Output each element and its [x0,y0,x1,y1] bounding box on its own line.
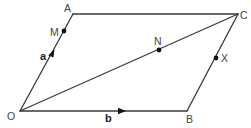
label-A: A [64,2,71,14]
label-X: X [221,52,228,64]
label-O: O [7,110,15,122]
parallelogram-diagram: A C O B M N X a b [0,0,251,128]
vector-b-arrowhead-icon [118,108,126,114]
label-M: M [50,26,59,38]
point-X [214,56,219,61]
label-vector-b: b [105,112,112,124]
label-B: B [186,113,193,125]
point-M [62,29,67,34]
label-vector-a: a [40,50,47,62]
edge-OA [20,14,73,111]
point-N [157,48,162,53]
label-N: N [154,35,162,47]
edge-CB [187,14,238,111]
label-C: C [240,9,248,21]
